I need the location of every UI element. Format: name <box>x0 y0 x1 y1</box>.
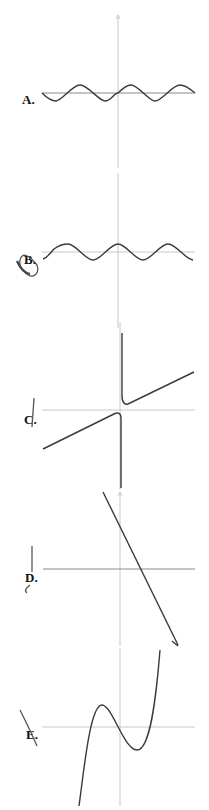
upper-branch-curve <box>122 333 194 404</box>
panel-label-c: C. <box>24 412 37 427</box>
panel-b: B. <box>17 173 195 328</box>
panel-label-b: B. <box>24 252 36 267</box>
lower-branch-curve <box>43 413 121 488</box>
check-mark-tail <box>26 585 30 593</box>
panel-d: D. <box>25 492 195 646</box>
panel-e: E. <box>20 641 195 806</box>
panel-label-a: A. <box>22 92 35 107</box>
panel-a: A. <box>22 15 195 168</box>
panel-label-d: D. <box>25 570 38 585</box>
graph-panels: A. B. C. D. E. <box>0 0 209 810</box>
panel-c: C. <box>24 322 195 490</box>
